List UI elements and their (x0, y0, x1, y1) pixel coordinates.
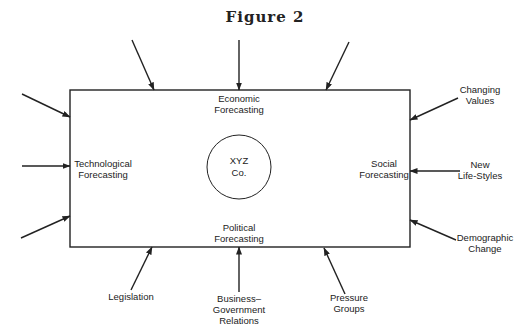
svg-text:Life-Styles: Life-Styles (458, 170, 503, 181)
arrow-bottom-pressure-groups-icon (324, 248, 345, 294)
svg-text:Forecasting: Forecasting (78, 169, 128, 180)
new-life-styles-label: New Life-Styles (458, 159, 503, 181)
arrow-left-bottom-icon (21, 216, 70, 238)
svg-text:Technological: Technological (74, 158, 132, 169)
svg-text:Relations: Relations (219, 315, 259, 326)
demographic-change-label: Demographic Change (457, 232, 514, 254)
svg-text:Government: Government (213, 304, 266, 315)
svg-text:Social: Social (371, 158, 397, 169)
changing-values-label: Changing Values (460, 84, 501, 106)
svg-text:Groups: Groups (333, 303, 364, 314)
arrow-left-top-icon (22, 94, 70, 117)
arrow-top-left-icon (132, 40, 154, 90)
svg-text:Change: Change (468, 243, 501, 254)
svg-text:Business–: Business– (217, 293, 262, 304)
figure-title: Figure 2 (226, 8, 305, 26)
economic-forecasting-label: Economic Forecasting (214, 93, 264, 115)
legislation-label: Legislation (108, 291, 153, 302)
company-label-line2: Co. (232, 167, 247, 178)
forecasting-diagram: Figure 2 XYZ Co. Economic Forecasting Te… (0, 0, 530, 335)
arrow-right-demographic-change-icon (410, 220, 456, 240)
arrow-bottom-legislation-icon (131, 247, 152, 290)
arrow-top-right-icon (326, 42, 349, 90)
technological-forecasting-label: Technological Forecasting (74, 158, 132, 180)
svg-text:Pressure: Pressure (330, 292, 368, 303)
svg-text:Changing: Changing (460, 84, 501, 95)
arrow-right-changing-values-icon (410, 98, 458, 120)
svg-text:Forecasting: Forecasting (214, 104, 264, 115)
svg-text:New: New (470, 159, 489, 170)
company-label-line1: XYZ (230, 155, 249, 166)
business-government-relations-label: Business– Government Relations (213, 293, 266, 326)
social-forecasting-label: Social Forecasting (359, 158, 409, 180)
svg-text:Demographic: Demographic (457, 232, 514, 243)
svg-text:Forecasting: Forecasting (214, 233, 264, 244)
svg-text:Economic: Economic (218, 93, 260, 104)
pressure-groups-label: Pressure Groups (330, 292, 368, 314)
svg-text:Values: Values (466, 95, 495, 106)
svg-text:Legislation: Legislation (108, 291, 153, 302)
svg-text:Forecasting: Forecasting (359, 169, 409, 180)
svg-text:Political: Political (223, 222, 256, 233)
political-forecasting-label: Political Forecasting (214, 222, 264, 244)
